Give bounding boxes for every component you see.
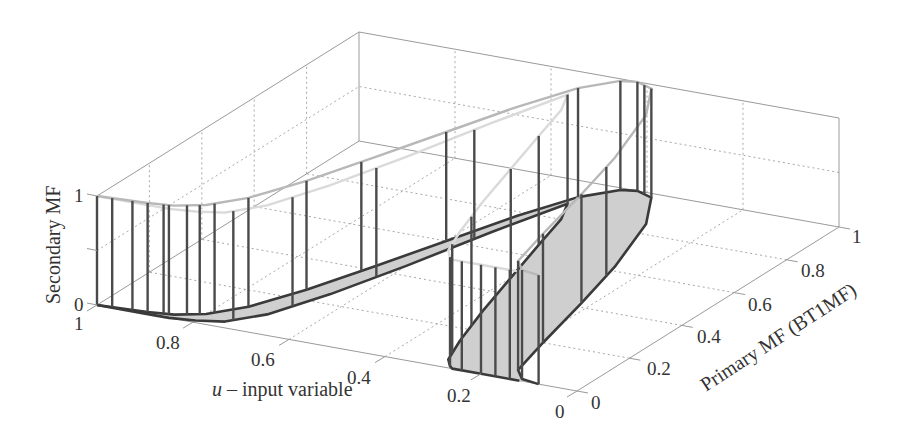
x-tick-mark xyxy=(279,339,289,345)
y-tick-1: 1 xyxy=(852,226,862,247)
z-tick-mark xyxy=(87,249,97,251)
z-axis-tick-labels: 1 0 xyxy=(74,185,84,315)
x-tick-0.2: 0.2 xyxy=(447,385,471,406)
x-tick-mark xyxy=(87,305,97,311)
box-edge xyxy=(97,32,359,196)
z-tick-mark xyxy=(87,303,97,305)
y-tick-0.6: 0.6 xyxy=(748,294,772,315)
y-axis-title: Primary MF (BT1MF) xyxy=(696,278,860,396)
x-tick-mark xyxy=(375,357,385,363)
z-tick-1: 1 xyxy=(74,185,84,206)
y-tick-0.8: 0.8 xyxy=(801,260,825,281)
lower-mf-top-curve xyxy=(97,95,568,272)
x-tick-mark xyxy=(183,322,193,328)
chart-3d-plot: 1 0 1 0.8 0.6 0.4 0.2 0 0 0.2 0.4 0.6 0.… xyxy=(0,0,908,439)
box-edge xyxy=(359,32,839,118)
x-tick-1: 1 xyxy=(74,313,84,334)
y-tick-0.4: 0.4 xyxy=(697,326,721,347)
x-tick-0.8: 0.8 xyxy=(156,332,180,353)
back-wall-grid-z xyxy=(359,87,839,173)
z-tick-0: 0 xyxy=(74,294,84,315)
x-tick-0.6: 0.6 xyxy=(251,349,275,370)
y-tick-mark xyxy=(734,293,745,295)
z-axis-title: Secondary MF xyxy=(42,186,65,304)
x-axis-title-variable: u xyxy=(212,378,222,400)
y-tick-0: 0 xyxy=(591,392,601,413)
y-tick-mark xyxy=(682,325,693,327)
x-axis-title: u – input variable xyxy=(212,378,353,401)
y-tick-mark xyxy=(839,227,850,229)
y-tick-mark xyxy=(629,358,640,360)
x-tick-mark xyxy=(471,374,481,380)
y-tick-0.2: 0.2 xyxy=(647,358,671,379)
left-wall-grid-z xyxy=(97,87,359,251)
box-edge xyxy=(97,141,359,305)
x-axis-title-rest: – input variable xyxy=(222,378,353,401)
z-tick-mark xyxy=(87,194,97,196)
y-tick-mark xyxy=(787,260,798,262)
y-tick-mark xyxy=(577,391,588,393)
x-tick-0: 0 xyxy=(555,401,565,422)
x-tick-mark xyxy=(567,391,577,397)
